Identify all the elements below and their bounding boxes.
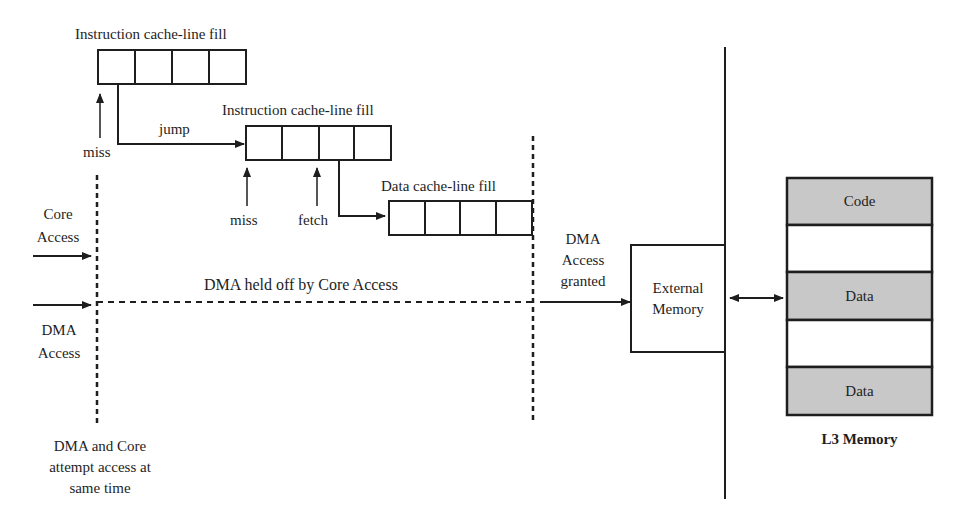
data-cache-line (389, 201, 532, 235)
simultaneous-access-label: DMA and Core attempt access at same time (32, 436, 168, 499)
fetch-to-data-arrow-icon (339, 160, 385, 216)
miss-label-2: miss (230, 211, 258, 229)
dma-access-line1: DMA (30, 321, 88, 339)
l3-segment-data-2: Data (787, 369, 932, 413)
dma-granted-line1: DMA (548, 229, 618, 250)
dma-granted-line3: granted (548, 271, 618, 292)
simultaneous-line2: attempt access at (32, 457, 168, 478)
dma-access-line2: Access (30, 344, 88, 362)
dma-granted-line2: Access (548, 250, 618, 271)
miss-label-1: miss (83, 143, 111, 161)
core-access-line2: Access (30, 228, 86, 246)
jump-label: jump (159, 120, 190, 138)
data-fill-label: Data cache-line fill (381, 177, 496, 195)
instruction-fill-2-label: Instruction cache-line fill (222, 101, 374, 119)
instruction-cache-line-2 (246, 126, 391, 160)
core-access-label: Core Access (30, 205, 86, 246)
external-memory-line1: External (631, 278, 725, 299)
dma-held-off-label: DMA held off by Core Access (204, 276, 398, 294)
instruction-fill-1-label: Instruction cache-line fill (75, 25, 227, 43)
dma-access-label: DMA Access (30, 321, 88, 362)
fetch-label: fetch (298, 211, 328, 229)
l3-segment-code: Code (787, 179, 932, 223)
core-access-line1: Core (30, 205, 86, 223)
simultaneous-line1: DMA and Core (32, 436, 168, 457)
simultaneous-line3: same time (32, 478, 168, 499)
dma-granted-label: DMA Access granted (548, 229, 618, 292)
l3-memory-title: L3 Memory (787, 430, 932, 448)
external-memory-label: External Memory (631, 278, 725, 320)
instruction-cache-line-1 (98, 50, 246, 84)
external-memory-line2: Memory (631, 299, 725, 320)
l3-segment-data-1: Data (787, 274, 932, 318)
